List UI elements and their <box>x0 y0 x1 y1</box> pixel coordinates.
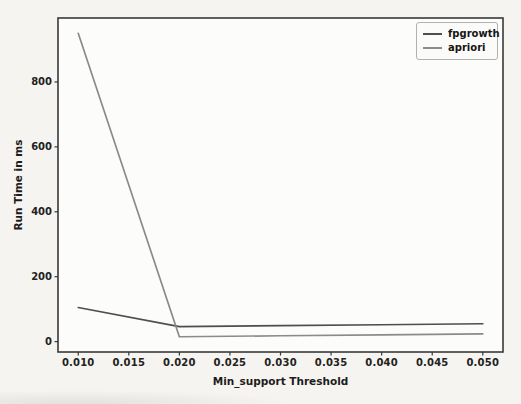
legend-label-fpgrowth: fpgrowth <box>448 27 500 41</box>
legend-label-apriori: apriori <box>448 41 486 55</box>
fpgrowth-line-swatch-icon <box>423 33 442 35</box>
y-tick-label: 0 <box>16 335 52 348</box>
x-tick-label: 0.040 <box>362 357 402 368</box>
series-line-apriori <box>78 33 483 336</box>
series-line-fpgrowth <box>78 308 483 327</box>
legend-entry-fpgrowth: fpgrowth <box>423 27 492 41</box>
plot-spines <box>58 18 503 352</box>
x-tick-label: 0.015 <box>109 357 149 368</box>
x-tick-label: 0.010 <box>58 357 98 368</box>
plot-area <box>0 0 521 404</box>
y-tick-label: 200 <box>16 270 52 283</box>
legend: fpgrowth apriori <box>416 22 498 60</box>
x-tick-label: 0.050 <box>463 357 503 368</box>
x-tick-label: 0.020 <box>159 357 199 368</box>
y-axis-label: Run Time in ms <box>12 119 26 251</box>
chart-figure: 0.0100.0150.0200.0250.0300.0350.0400.045… <box>0 0 521 404</box>
x-tick-label: 0.025 <box>210 357 250 368</box>
x-tick-label: 0.035 <box>311 357 351 368</box>
legend-entry-apriori: apriori <box>423 41 492 55</box>
apriori-line-swatch-icon <box>423 47 442 49</box>
x-axis-label: Min_support Threshold <box>160 375 401 387</box>
x-tick-label: 0.045 <box>412 357 452 368</box>
y-tick-label: 800 <box>16 75 52 88</box>
x-tick-label: 0.030 <box>261 357 301 368</box>
